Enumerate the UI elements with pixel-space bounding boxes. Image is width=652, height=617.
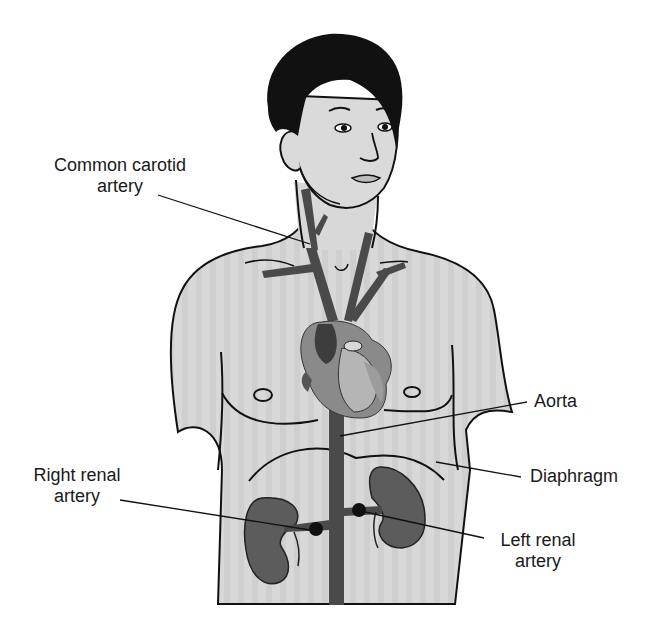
label-aorta: Aorta	[534, 391, 577, 412]
label-common-carotid-artery: Common carotid artery	[40, 155, 200, 197]
right-renal-node	[309, 522, 323, 536]
head	[267, 34, 402, 208]
label-diaphragm: Diaphragm	[530, 466, 618, 487]
label-left-renal-line2: artery	[488, 551, 588, 572]
label-left-renal-artery: Left renal artery	[488, 530, 588, 572]
label-right-renal-artery: Right renal artery	[22, 465, 132, 507]
label-common-carotid-line1: Common carotid	[40, 155, 200, 176]
label-right-renal-line1: Right renal	[22, 465, 132, 486]
carotid-leader-line	[158, 195, 310, 244]
label-aorta-line1: Aorta	[534, 391, 577, 412]
label-common-carotid-line2: artery	[40, 176, 200, 197]
label-left-renal-line1: Left renal	[488, 530, 588, 551]
label-diaphragm-line1: Diaphragm	[530, 466, 618, 487]
label-right-renal-line2: artery	[22, 486, 132, 507]
anatomy-illustration	[0, 0, 652, 617]
